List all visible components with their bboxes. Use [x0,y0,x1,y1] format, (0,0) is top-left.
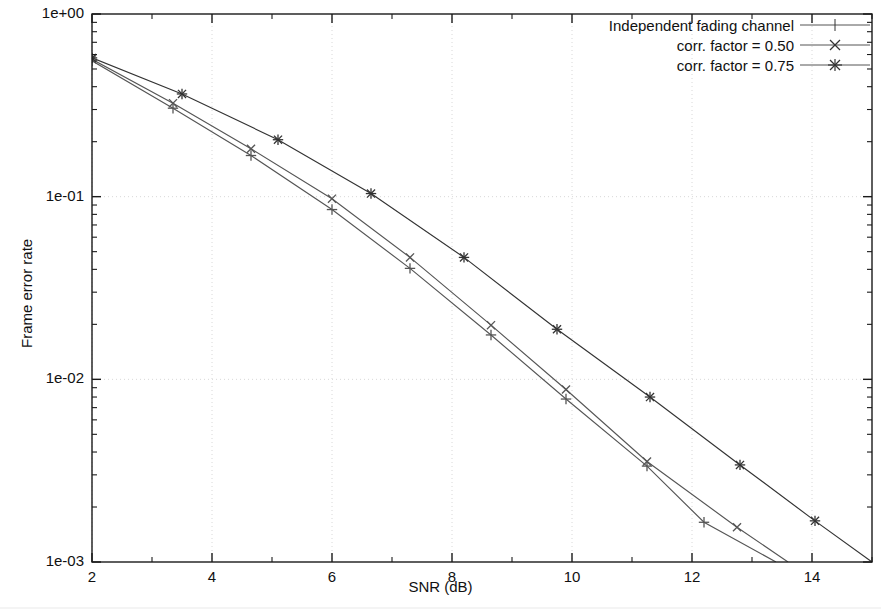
legend-item-label: corr. factor = 0.50 [677,37,798,54]
cross-marker-icon [798,36,872,54]
y-tick-label: 1e-02 [14,369,84,386]
x-tick-label: 2 [72,568,112,585]
x-tick-label: 6 [312,568,352,585]
y-tick-label: 1e-01 [14,187,84,204]
star-marker-icon [798,56,872,74]
legend-item: Independent fading channel [540,15,872,35]
x-tick-label: 10 [552,568,592,585]
legend-item-label: corr. factor = 0.75 [677,57,798,74]
chart-figure: Frame error rate SNR (dB) 1e+001e-011e-0… [0,0,881,611]
page-edge-artifact [0,605,881,611]
x-tick-label: 8 [432,568,472,585]
legend-item: corr. factor = 0.50 [540,35,872,55]
chart-legend: Independent fading channel corr. factor … [540,15,872,77]
legend-item: corr. factor = 0.75 [540,55,872,75]
y-tick-label: 1e+00 [14,4,84,21]
y-axis-title: Frame error rate [18,239,35,348]
x-tick-label: 12 [672,568,712,585]
x-tick-label: 4 [192,568,232,585]
x-tick-label: 14 [792,568,832,585]
legend-item-label: Independent fading channel [609,17,798,34]
plus-marker-icon [798,16,872,34]
y-tick-label: 1e-03 [14,552,84,569]
plot-canvas [0,0,881,611]
